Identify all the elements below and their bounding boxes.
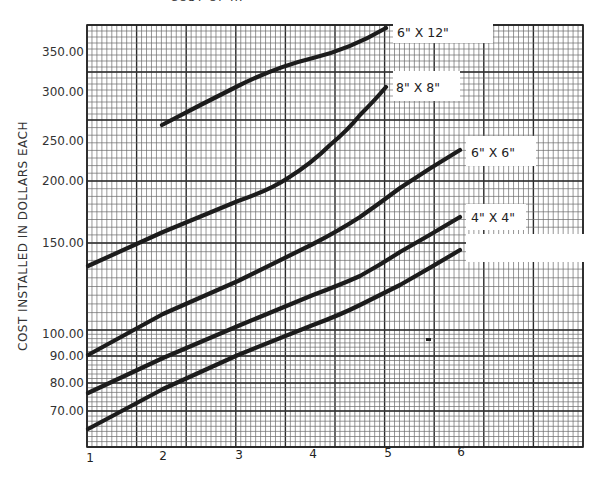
x-tick-5: 5 [384, 446, 392, 460]
curve-label-6x12: 6" X 12" [397, 25, 449, 40]
x-tick-1: 1 [86, 451, 94, 465]
x-tick-6: 6 [457, 445, 465, 459]
y-tick-70: 70.00 [50, 404, 84, 418]
label-bg-2half [466, 234, 586, 262]
y-tick-150: 150.00 [42, 236, 84, 250]
y-tick-90: 90.00 [50, 349, 84, 363]
y-tick-350: 350.00 [42, 45, 84, 59]
curve-label-8x8: 8" X 8" [396, 80, 440, 95]
stray-mark [426, 338, 431, 341]
x-tick-4: 4 [309, 447, 317, 461]
y-tick-300: 300.00 [42, 85, 84, 99]
curve-label-6x6: 6" X 6" [471, 145, 515, 160]
y-tick-250: 250.00 [42, 134, 84, 148]
x-tick-3: 3 [235, 448, 243, 462]
y-tick-80: 80.00 [50, 376, 84, 390]
y-tick-200: 200.00 [42, 174, 84, 188]
y-axis-label: COST INSTALLED IN DOLLARS EACH [16, 121, 30, 351]
cost-chart: 6" X 12" 8" X 8" 6" X 6" 4" X 4" 350.00 … [0, 0, 597, 481]
x-tick-2: 2 [159, 449, 167, 463]
curve-6x12 [162, 28, 386, 125]
y-tick-100: 100.00 [42, 327, 84, 341]
curve-label-4x4: 4" X 4" [471, 210, 515, 225]
